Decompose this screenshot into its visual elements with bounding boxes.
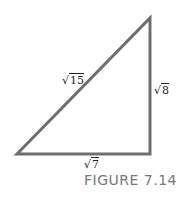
radical-sign: √ <box>62 74 69 87</box>
radicand: 8 <box>161 83 169 97</box>
figure-caption: FIGURE 7.14 <box>84 172 177 188</box>
horizontal-leg-label: √7 <box>84 158 99 171</box>
hypotenuse-label: √15 <box>62 74 84 87</box>
radicand: 15 <box>69 73 84 87</box>
radicand: 7 <box>91 157 99 171</box>
radical-sign: √ <box>154 84 161 97</box>
radical-sign: √ <box>84 158 91 171</box>
vertical-leg-label: √8 <box>154 84 169 97</box>
